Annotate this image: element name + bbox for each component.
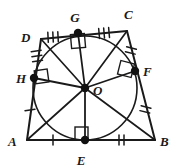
tick-BF <box>140 106 151 113</box>
label-B: B <box>159 134 169 149</box>
label-F: F <box>142 64 152 79</box>
label-C: C <box>124 7 133 22</box>
dot-G <box>74 29 82 37</box>
label-E: E <box>76 153 86 168</box>
dot-F <box>131 67 139 75</box>
side-DA <box>27 39 41 140</box>
geometry-canvas: A B C D E F G H O <box>0 0 173 168</box>
radius-OG <box>78 33 85 88</box>
label-A: A <box>7 134 17 149</box>
label-G: G <box>70 10 80 25</box>
dot-O <box>81 84 89 92</box>
tick-DH <box>31 50 42 61</box>
label-D: D <box>20 30 31 45</box>
label-H: H <box>15 71 27 86</box>
tick-FC <box>125 47 136 54</box>
segment-OC <box>85 31 127 88</box>
segment-OA <box>27 88 85 140</box>
dot-E <box>81 136 89 144</box>
label-O: O <box>93 83 103 98</box>
geometry-figure: A B C D E F G H O <box>0 0 173 168</box>
dot-H <box>30 74 38 82</box>
tick-HA <box>25 109 35 110</box>
